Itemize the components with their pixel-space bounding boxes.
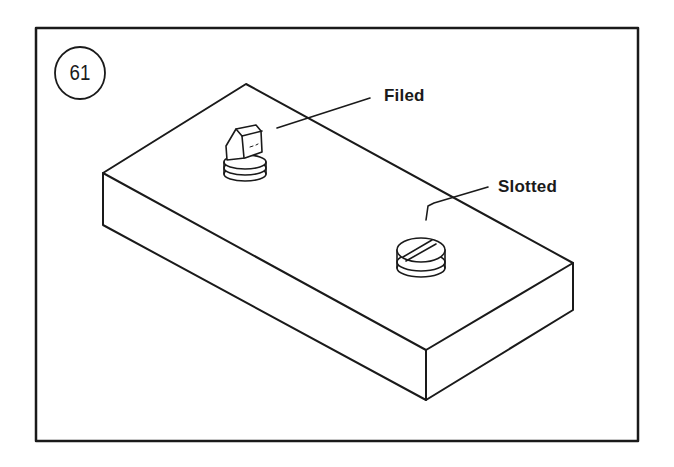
filed-label: Filed [384, 86, 425, 106]
slotted-screw [397, 238, 445, 277]
slotted-label: Slotted [498, 177, 557, 197]
block [103, 84, 573, 400]
figure-61: 61 Filed Slotted [0, 0, 674, 467]
figure-number: 61 [59, 48, 102, 98]
